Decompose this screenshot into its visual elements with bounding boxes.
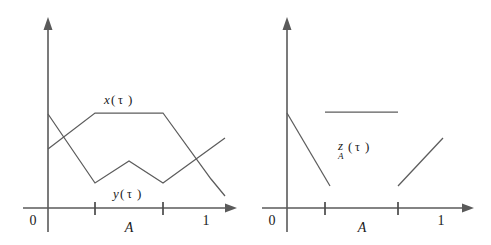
- left-panel-interval-label: A: [124, 220, 134, 235]
- left-panel-x-axis-arrow-icon: [225, 204, 237, 213]
- left-panel-curve-x-label-paren-close: ): [128, 92, 132, 107]
- right-panel-origin-label: 0: [269, 213, 276, 228]
- right-panel-one-label: 1: [438, 213, 445, 228]
- right-panel-curve-z-label-paren-close: ): [365, 139, 369, 154]
- left-panel-curve-x-label-paren-open: (: [111, 92, 115, 107]
- right-panel-curve-z-segment-descending: [287, 113, 330, 186]
- left-panel: 0 1 A x ( τ ) y ( τ ): [23, 17, 237, 235]
- left-panel-curve-x-label-name: x: [103, 92, 110, 107]
- left-panel-curve-y-label: y ( τ ): [111, 186, 141, 201]
- left-panel-curve-y-label-paren-open: (: [120, 186, 124, 201]
- left-panel-origin-label: 0: [30, 213, 37, 228]
- right-panel-interval-label: A: [357, 220, 367, 235]
- left-panel-y-axis-arrow-icon: [44, 17, 53, 30]
- right-panel-curve-z-segment-ascending: [398, 138, 443, 186]
- left-panel-curve-y-label-paren-close: ): [137, 186, 141, 201]
- left-panel-one-label: 1: [203, 213, 210, 228]
- right-panel-y-axis-arrow-icon: [283, 17, 292, 30]
- left-panel-curve-y-label-tau: τ: [127, 187, 132, 201]
- signal-diagram: 0 1 A x ( τ ) y ( τ ): [0, 0, 491, 245]
- right-panel-curve-z-label-paren-open: (: [348, 139, 352, 154]
- left-panel-curve-y-label-name: y: [111, 186, 119, 201]
- left-panel-curve-x-label: x ( τ ): [103, 92, 132, 107]
- right-panel-curve-z-label-subscript: A: [337, 151, 344, 161]
- left-panel-curve-y: [48, 114, 225, 183]
- right-panel-x-axis-arrow-icon: [462, 204, 474, 213]
- left-panel-curve-x: [48, 113, 225, 196]
- left-panel-curve-x-label-tau: τ: [118, 93, 123, 107]
- right-panel-curve-z-label-tau: τ: [355, 140, 360, 154]
- right-panel-curve-z-label: z A ( τ ): [337, 138, 369, 161]
- figure-container: 0 1 A x ( τ ) y ( τ ): [0, 0, 491, 245]
- right-panel: 0 1 A z A ( τ ): [262, 17, 474, 235]
